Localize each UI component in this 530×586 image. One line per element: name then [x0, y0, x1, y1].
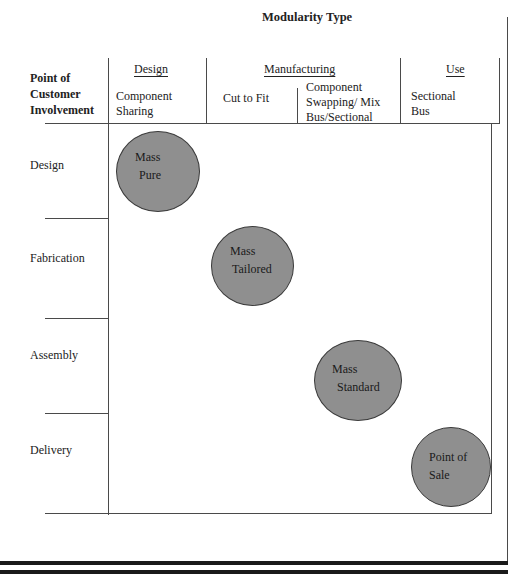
row-label-fabrication: Fabrication	[30, 251, 85, 266]
row-axis-title: Point of Customer Involvement	[30, 70, 94, 118]
row-axis-title-line: Involvement	[30, 102, 94, 118]
circle-point-of-sale: Point of Sale	[411, 427, 491, 507]
row-divider	[45, 413, 109, 414]
column-header-line: Bus	[411, 104, 456, 119]
row-label-delivery: Delivery	[30, 443, 72, 458]
diagram-title: Modularity Type	[262, 10, 352, 25]
column-header-cut-to-fit: Cut to Fit	[223, 91, 269, 106]
row-axis-line	[108, 58, 109, 515]
column-header-line: Sectional	[411, 89, 456, 104]
circle-label: Tailored	[232, 258, 272, 280]
column-divider	[400, 58, 401, 123]
column-group-use: Use	[446, 62, 465, 77]
column-header-component-sharing: Component Sharing	[116, 89, 172, 119]
bottom-rule	[0, 561, 508, 565]
column-divider	[499, 58, 500, 123]
column-divider	[206, 58, 207, 123]
circle-label: Sale	[429, 464, 450, 486]
row-axis-title-line: Point of	[30, 70, 94, 86]
column-header-line: Component	[116, 89, 172, 104]
column-divider	[297, 88, 298, 123]
outer-border-right	[507, 17, 508, 563]
column-header-line: Sharing	[116, 104, 172, 119]
column-group-design: Design	[134, 62, 168, 77]
column-group-manufacturing: Manufacturing	[264, 62, 335, 77]
column-header-sectional-bus: Sectional Bus	[411, 89, 456, 119]
circle-mass-tailored: Mass Tailored	[211, 226, 294, 306]
column-header-line: Component	[306, 80, 380, 95]
grid-right-line	[491, 123, 492, 514]
grid-bottom-line	[45, 513, 492, 514]
column-header-line: Cut to Fit	[223, 91, 269, 106]
row-divider	[45, 218, 109, 219]
row-label-assembly: Assembly	[30, 348, 78, 363]
row-label-design: Design	[30, 158, 64, 173]
row-divider	[45, 318, 109, 319]
circle-mass-standard: Mass Standard	[314, 340, 402, 421]
circle-label: Standard	[337, 376, 380, 398]
row-axis-title-line: Customer	[30, 86, 94, 102]
bottom-rule	[0, 570, 508, 574]
header-bottom-line	[45, 123, 500, 124]
column-header-component-swapping: Component Swapping/ Mix Bus/Sectional	[306, 80, 380, 125]
circle-label: Pure	[139, 164, 161, 186]
circle-mass-pure: Mass Pure	[116, 131, 200, 212]
column-header-line: Swapping/ Mix	[306, 95, 380, 110]
